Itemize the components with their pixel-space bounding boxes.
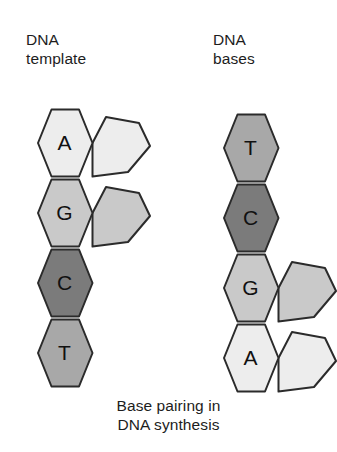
base-token-cytosine: C xyxy=(222,181,337,255)
figure-caption: Base pairing in DNA synthesis xyxy=(0,396,337,434)
hexagon-ring-shape xyxy=(224,325,279,392)
pentagon-ring-shape xyxy=(93,117,151,177)
column-heading-dna-bases: DNA bases xyxy=(213,30,255,68)
base-token-guanine: G xyxy=(36,176,156,250)
hexagon-ring-shape xyxy=(38,250,93,317)
hexagon-ring-shape xyxy=(224,185,279,252)
pentagon-ring-shape xyxy=(93,187,151,247)
base-token-guanine: G xyxy=(222,251,337,325)
base-token-thymine: T xyxy=(36,316,156,390)
dna-base-pairing-diagram: DNA template DNA bases AGCT TCGA Base pa… xyxy=(0,0,337,452)
base-token-cytosine: C xyxy=(36,246,156,320)
hexagon-ring-shape xyxy=(38,180,93,247)
column-heading-dna-template: DNA template xyxy=(26,30,86,68)
base-token-adenine: A xyxy=(222,321,337,395)
hexagon-ring-shape xyxy=(38,110,93,177)
base-token-thymine: T xyxy=(222,111,337,185)
pentagon-ring-shape xyxy=(279,332,337,392)
pentagon-ring-shape xyxy=(279,262,337,322)
hexagon-ring-shape xyxy=(224,255,279,322)
base-token-adenine: A xyxy=(36,106,156,180)
hexagon-ring-shape xyxy=(224,115,279,182)
hexagon-ring-shape xyxy=(38,320,93,387)
